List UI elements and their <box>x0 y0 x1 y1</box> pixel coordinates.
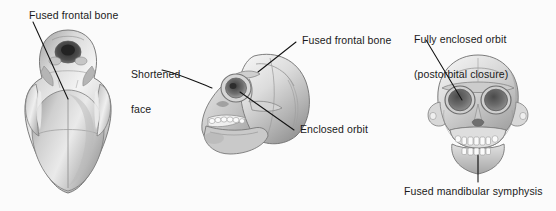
label-shortened-face-line1: Shortened <box>131 69 180 81</box>
label-fully-enclosed-orbit-line2: (postorbital closure) <box>414 69 508 81</box>
label-fused-mandibular-symphysis: Fused mandibular symphysis <box>404 186 543 198</box>
label-fully-enclosed-orbit: Fully enclosed orbit (postorbital closur… <box>414 11 508 103</box>
label-enclosed-orbit: Enclosed orbit <box>300 124 368 136</box>
label-shortened-face-line2: face <box>131 104 180 116</box>
lateral-skull-illustration <box>196 46 318 164</box>
label-fused-frontal-bone-ventral: Fused frontal bone <box>29 10 118 22</box>
label-fused-frontal-bone-lateral: Fused frontal bone <box>302 35 391 47</box>
ventral-skull-illustration <box>22 28 114 196</box>
label-shortened-face: Shortened face <box>131 46 180 138</box>
primate-skull-anatomy-figure: Fused frontal bone Shortened face Fused … <box>0 0 556 211</box>
label-fully-enclosed-orbit-line1: Fully enclosed orbit <box>414 34 508 46</box>
